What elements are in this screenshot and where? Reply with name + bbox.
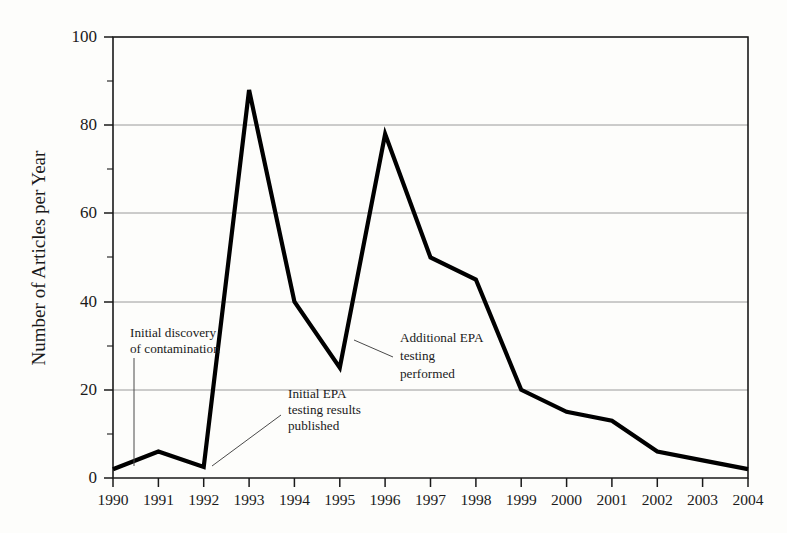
xtick-label-2004: 2004 xyxy=(733,491,764,508)
annotation-initial-epa-testing: Initial EPA testing results published xyxy=(288,386,361,433)
x-axis-ticks xyxy=(113,478,748,487)
xtick-label-1990: 1990 xyxy=(98,491,129,508)
xtick-label-1995: 1995 xyxy=(324,491,355,508)
data-series-line xyxy=(113,90,748,469)
annotation-initial-discovery-line-2: of contamination xyxy=(130,341,220,356)
y-axis-minor-ticks xyxy=(107,81,113,434)
chart-figure: 100 80 60 40 20 0 Number of Articles per… xyxy=(0,0,787,533)
xtick-label-2000: 2000 xyxy=(551,491,582,508)
xtick-label-2001: 2001 xyxy=(596,491,627,508)
annotation-initial-epa-testing-line-2: testing results xyxy=(288,402,361,417)
annotation-additional-epa-testing-line-1: Additional EPA xyxy=(400,330,484,345)
leader-line-initial-epa-testing xyxy=(212,415,281,466)
ytick-label-20: 20 xyxy=(80,380,97,399)
xtick-label-2002: 2002 xyxy=(642,491,673,508)
annotation-initial-discovery: Initial discovery of contamination xyxy=(130,325,220,356)
ytick-label-80: 80 xyxy=(80,115,97,134)
xtick-label-1994: 1994 xyxy=(279,491,310,508)
ytick-label-0: 0 xyxy=(89,468,98,487)
y-axis-title: Number of Articles per Year xyxy=(28,150,49,365)
line-chart: 100 80 60 40 20 0 Number of Articles per… xyxy=(0,0,787,533)
annotation-additional-epa-testing: Additional EPA testing performed xyxy=(400,330,484,381)
ytick-label-40: 40 xyxy=(80,292,97,311)
annotation-additional-epa-testing-line-2: testing xyxy=(400,348,436,363)
x-axis-tick-labels: 1990 1991 1992 1993 1994 1995 1996 1997 … xyxy=(98,491,764,508)
xtick-label-2003: 2003 xyxy=(687,491,718,508)
xtick-label-1998: 1998 xyxy=(460,491,491,508)
annotation-initial-epa-testing-line-3: published xyxy=(288,418,340,433)
leader-line-additional-epa-testing xyxy=(354,340,393,357)
xtick-label-1997: 1997 xyxy=(415,491,446,508)
xtick-label-1991: 1991 xyxy=(143,491,174,508)
xtick-label-1996: 1996 xyxy=(370,491,401,508)
annotation-initial-epa-testing-line-1: Initial EPA xyxy=(288,386,347,401)
xtick-label-1999: 1999 xyxy=(506,491,537,508)
xtick-label-1992: 1992 xyxy=(188,491,219,508)
y-axis-tick-labels: 100 80 60 40 20 0 xyxy=(72,27,98,487)
xtick-label-1993: 1993 xyxy=(234,491,265,508)
annotation-additional-epa-testing-line-3: performed xyxy=(400,366,455,381)
ytick-label-100: 100 xyxy=(72,27,98,46)
annotation-initial-discovery-line-1: Initial discovery xyxy=(130,325,216,340)
ytick-label-60: 60 xyxy=(80,203,97,222)
